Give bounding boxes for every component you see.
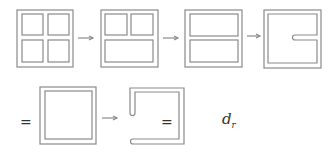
arrow-right-icon xyxy=(102,116,117,120)
diagram-canvas xyxy=(0,0,335,155)
single-pane-with-slot xyxy=(264,10,321,68)
equals-sign-2: = xyxy=(161,114,173,130)
variable-subscript: r xyxy=(232,120,236,130)
arrow-right-icon xyxy=(163,36,178,40)
arrow-right-icon xyxy=(247,34,260,38)
open-c-shape-channel xyxy=(130,88,184,144)
arrow-right-icon xyxy=(78,36,93,40)
variable-main: d xyxy=(222,110,232,128)
single-pane-frame xyxy=(40,87,96,144)
variable-dr: dr xyxy=(222,110,236,130)
two-top-one-bottom-frame xyxy=(101,10,158,67)
four-pane-frame xyxy=(17,10,73,67)
equals-sign-1: = xyxy=(20,114,32,130)
two-horizontal-pane-frame xyxy=(185,10,242,67)
